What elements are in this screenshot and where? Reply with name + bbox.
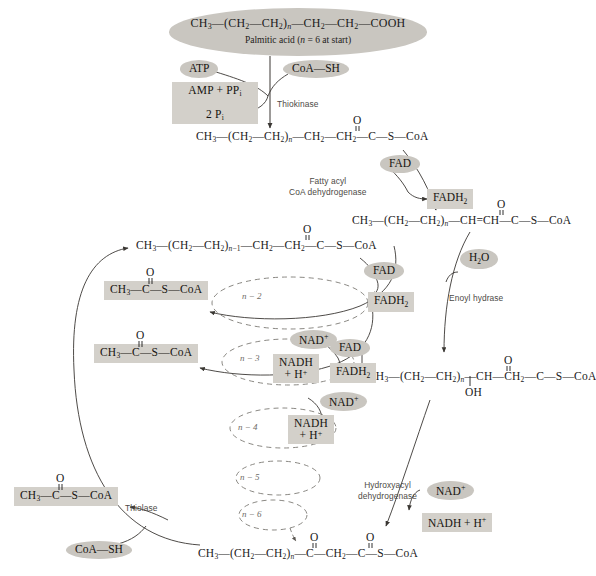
hydroxyacyl-dehydrogenase-label: Hydroxyacyl dehydrogenase xyxy=(358,480,417,501)
nadh-h-3-node: NADH + H+ xyxy=(422,513,492,532)
h2o-node: H2O xyxy=(460,249,498,269)
acyl-coa-carbonyl-o: O xyxy=(353,115,362,127)
hydroxyacyl-carbonyl-o: O xyxy=(504,355,513,367)
enoyl-hydrase-label: Enoyl hydrase xyxy=(449,293,503,304)
ketoacyl-carbonyl-o: O xyxy=(366,532,375,544)
shortened-acyl-carbonyl-o: O xyxy=(303,224,312,236)
spiral-label-n-4: n − 4 xyxy=(238,423,258,432)
acetyl-coa-box-3: CH3—C—S—CoA xyxy=(14,487,118,506)
acetyl-coa-1-carbonyl-o: O xyxy=(146,267,155,279)
amp-ppi-box: AMP + PPi 2 Pi xyxy=(172,82,258,124)
nad-plus-2-node: NAD+ xyxy=(320,392,367,411)
nadh-h-2-node: NADH + H+ xyxy=(288,415,334,444)
palmitic-acid-caption: Palmitic acid (n = 6 at start) xyxy=(187,36,409,46)
acetyl-coa-3-carbonyl-o: O xyxy=(56,473,65,485)
palmitic-acid-node: CH3—(CH2—CH2)n—CH2—CH2—COOH Palmitic aci… xyxy=(169,8,427,56)
spiral-label-n-2: n − 2 xyxy=(242,292,262,301)
fad-1-node: FAD xyxy=(380,155,420,173)
fad-3-node: FAD xyxy=(330,339,370,357)
fadh2-3-node: FADH2 xyxy=(330,363,376,383)
hydroxyacyl-coa-intermediate: CH3—(CH2—CH2)n—CH—CH2—C—S—CoA xyxy=(368,371,596,384)
beta-oxidation-diagram: CH3—(CH2—CH2)n—CH2—CH2—COOH Palmitic aci… xyxy=(0,0,596,576)
spiral-label-n-5: n − 5 xyxy=(240,473,260,482)
acetyl-coa-box-1: CH3—C—S—CoA xyxy=(104,281,208,300)
amp-ppi-line1: AMP + PPi xyxy=(178,85,252,98)
coa-sh-bottom-node: CoA—SH xyxy=(66,541,132,559)
fadh2-2-node: FADH2 xyxy=(368,292,414,312)
enoyl-coa-carbonyl-o: O xyxy=(497,199,506,211)
fad-2-node: FAD xyxy=(364,262,404,280)
shortened-acyl-coa-intermediate: CH3—(CH2—CH2)n−1—CH2—CH2—C—S—CoA xyxy=(136,240,377,253)
fadh2-1-node: FADH2 xyxy=(427,189,473,209)
enoyl-coa-intermediate: CH3—(CH2—CH2)n—CH=CH—C—S—CoA xyxy=(352,215,571,228)
acyl-coa-intermediate: CH3—(CH2—CH2)n—CH2—CH2—C—S—CoA xyxy=(196,131,428,144)
acetyl-coa-box-2: CH3—C—S—CoA xyxy=(94,344,198,363)
palmitic-acid-formula: CH3—(CH2—CH2)n—CH2—CH2—COOH xyxy=(187,17,409,31)
ketoacyl-coa-intermediate: CH3—(CH2—CH2)n—C—CH2—C—S—CoA xyxy=(198,548,418,561)
hydroxyl-group-label: OH xyxy=(465,387,482,399)
spiral-label-n-6: n − 6 xyxy=(242,510,262,519)
coa-sh-top-node: CoA—SH xyxy=(283,60,349,78)
nadh-h-1-node: NADH + H+ xyxy=(273,354,319,383)
two-pi-line: 2 Pi xyxy=(178,109,252,122)
acetyl-coa-2-carbonyl-o: O xyxy=(136,330,145,342)
ketoacyl-keto-o: O xyxy=(310,532,319,544)
thiolase-label: Thiolase xyxy=(125,503,157,514)
thiokinase-label: Thiokinase xyxy=(277,99,319,110)
nad-plus-3-node: NAD+ xyxy=(427,481,474,500)
spiral-label-n-3: n − 3 xyxy=(240,354,260,363)
fatty-acyl-coa-dehydrogenase-label: Fatty acyl CoA dehydrogenase xyxy=(289,176,367,197)
atp-node: ATP xyxy=(180,60,218,78)
